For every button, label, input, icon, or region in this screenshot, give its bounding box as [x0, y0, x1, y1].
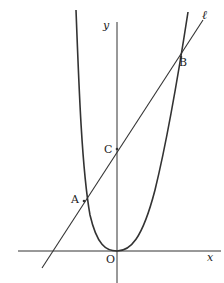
line-l-label: ℓ [202, 9, 207, 21]
x-axis-label: x [207, 252, 213, 263]
origin-label: O [106, 254, 115, 265]
parabola-curve [76, 10, 188, 251]
point-C [116, 148, 119, 151]
y-axis-label: y [103, 20, 109, 31]
point-A-label: A [71, 194, 79, 205]
diagram-canvas [0, 0, 224, 283]
point-C-label: C [104, 144, 112, 155]
point-B-label: B [179, 57, 187, 68]
point-A [83, 200, 86, 203]
